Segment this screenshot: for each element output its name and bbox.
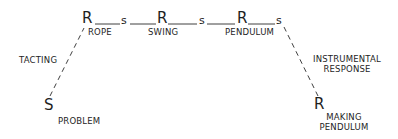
response-pendulum-symbol: R (237, 11, 247, 26)
response-rope-symbol: R (82, 11, 92, 26)
response-swing-symbol: R (157, 11, 167, 26)
stimulus-3-symbol: s (276, 15, 282, 26)
making-pendulum-label: PENDULUM (314, 123, 374, 132)
response-label: RESPONSE (302, 65, 392, 74)
making-label: MAKING (314, 113, 374, 122)
instrumental-label: INSTRUMENTAL (302, 55, 392, 64)
tacting-label: TACTING (19, 56, 57, 65)
pendulum-label: PENDULUM (225, 28, 274, 37)
response-making-pendulum-symbol: R (314, 97, 324, 112)
stimulus-2-symbol: s (199, 15, 205, 26)
rope-label: ROPE (88, 28, 112, 37)
swing-label: SWING (148, 28, 178, 37)
stimulus-problem-symbol: S (44, 98, 54, 113)
stimulus-1-symbol: s (121, 15, 127, 26)
problem-label: PROBLEM (58, 117, 100, 126)
